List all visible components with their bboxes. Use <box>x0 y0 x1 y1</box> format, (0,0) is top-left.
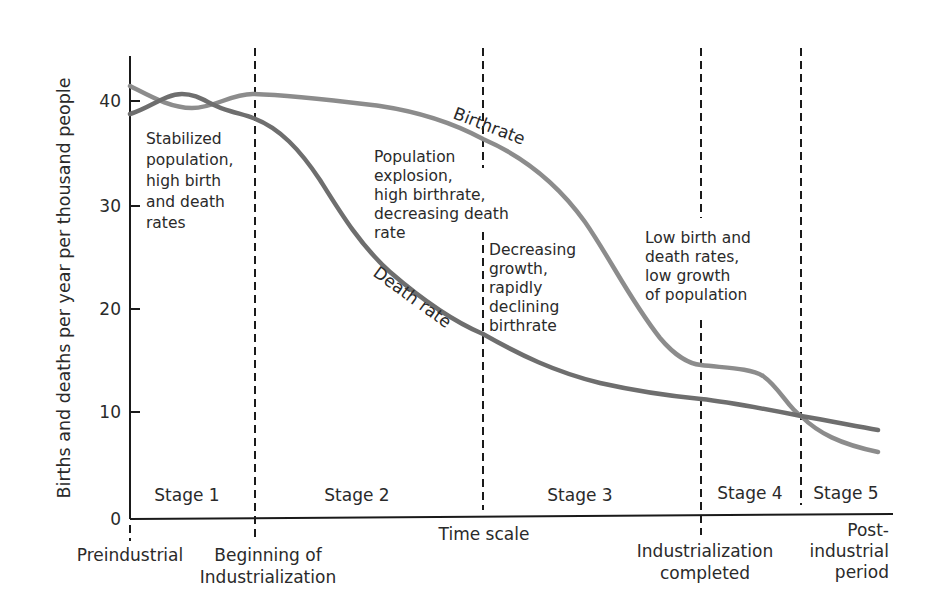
stage-5-label: Stage 5 <box>813 483 878 503</box>
marker-preindustrial: Preindustrial <box>77 545 183 565</box>
svg-text:Post-: Post- <box>847 520 889 540</box>
demographic-transition-chart: Births and deaths per year per thousand … <box>0 0 930 615</box>
y-tick-label-40: 40 <box>99 91 121 111</box>
svg-text:declining: declining <box>489 298 559 316</box>
svg-text:high birth: high birth <box>146 172 221 190</box>
marker-post-industrial-period: Post- industrial period <box>810 520 889 582</box>
y-tick-label-10: 10 <box>99 402 121 422</box>
marker-industrialization-completed: Industrialization completed <box>637 541 773 583</box>
svg-text:low growth: low growth <box>645 267 730 285</box>
svg-text:Industrialization: Industrialization <box>200 567 336 587</box>
svg-text:Beginning of: Beginning of <box>214 545 322 565</box>
y-axis-title: Births and deaths per year per thousand … <box>54 78 74 499</box>
svg-text:industrial: industrial <box>810 541 889 561</box>
death-rate-label: Death rate <box>370 262 456 332</box>
marker-beginning-of-industrialization: Beginning of Industrialization <box>200 545 336 587</box>
svg-text:Low birth and: Low birth and <box>645 229 751 247</box>
svg-text:rapidly: rapidly <box>489 279 542 297</box>
svg-text:rate: rate <box>374 224 405 242</box>
stage-3-annotation: Decreasing growth, rapidly declining bir… <box>489 241 576 335</box>
svg-text:death rates,: death rates, <box>645 248 739 266</box>
svg-text:Population: Population <box>374 148 455 166</box>
stage-2-annotation: Population explosion, high birthrate, de… <box>374 148 509 242</box>
svg-text:completed: completed <box>660 563 750 583</box>
svg-text:growth,: growth, <box>489 260 548 278</box>
stage-2-label: Stage 2 <box>324 485 389 505</box>
svg-text:rates: rates <box>146 214 186 232</box>
svg-text:birthrate: birthrate <box>489 317 557 335</box>
svg-text:decreasing death: decreasing death <box>374 205 509 223</box>
y-ticks <box>130 101 140 412</box>
svg-text:high birthrate,: high birthrate, <box>374 186 486 204</box>
svg-text:of population: of population <box>645 286 747 304</box>
y-tick-label-0: 0 <box>110 509 121 529</box>
stage-1-label: Stage 1 <box>154 485 219 505</box>
svg-text:period: period <box>835 562 889 582</box>
stage-3-label: Stage 3 <box>547 485 612 505</box>
stage-1-annotation: Stabilized population, high birth and de… <box>146 130 233 232</box>
svg-text:Stabilized: Stabilized <box>146 130 222 148</box>
y-tick-label-30: 30 <box>99 196 121 216</box>
svg-text:and death: and death <box>146 193 225 211</box>
svg-text:explosion,: explosion, <box>374 167 453 185</box>
svg-text:Decreasing: Decreasing <box>489 241 576 259</box>
svg-text:population,: population, <box>146 151 233 169</box>
stage-4-annotation: Low birth and death rates, low growth of… <box>645 229 751 304</box>
stage-4-label: Stage 4 <box>717 483 782 503</box>
x-axis-title: Time scale <box>438 524 530 544</box>
svg-text:Industrialization: Industrialization <box>637 541 773 561</box>
y-tick-label-20: 20 <box>99 299 121 319</box>
x-axis-line <box>130 514 893 519</box>
